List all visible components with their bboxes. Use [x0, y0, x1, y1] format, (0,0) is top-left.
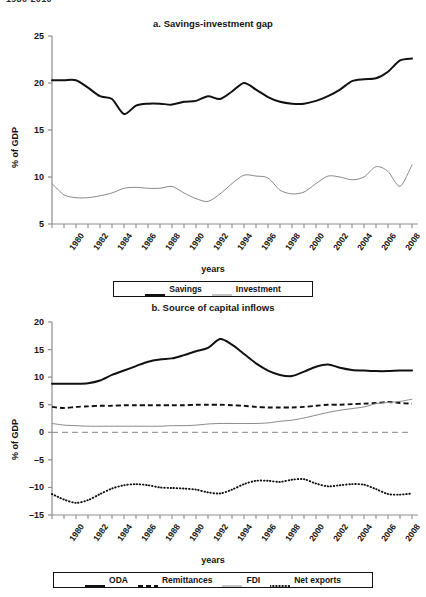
chart-panel-source-of-capital-inflows: b. Source of capital inflows % of GDP –1… [0, 300, 426, 597]
series-line-savings [52, 59, 412, 115]
y-tick-label: –10 [16, 482, 44, 492]
y-tick-label: 10 [16, 172, 44, 182]
panel-a-x-axis-label: years [0, 264, 426, 274]
y-tick-label: 0 [16, 427, 44, 437]
y-tick-label: 20 [16, 317, 44, 327]
y-tick-label: 5 [16, 400, 44, 410]
legend-key-investment [212, 285, 232, 293]
legend-key-net-exports [270, 576, 290, 584]
legend-key-fdi [222, 576, 242, 584]
panel-b-legend: ODARemittancesFDINet exports [53, 572, 373, 588]
figure-root: 1980-2010 a. Savings-investment gap % of… [0, 0, 426, 597]
legend-key-remittances [138, 576, 158, 584]
panel-b-x-axis-label: years [0, 555, 426, 565]
legend-item: Net exports [270, 575, 341, 585]
clipped-page-header: 1980-2010 [6, 0, 52, 2]
panel-a-legend: SavingsInvestment [113, 281, 313, 297]
y-tick-label: 5 [16, 219, 44, 229]
series-line-net-exports [52, 479, 412, 503]
y-tick-label: 20 [16, 78, 44, 88]
y-tick-label: –5 [16, 455, 44, 465]
panel-b-plot [0, 300, 426, 550]
legend-key-savings [145, 285, 165, 293]
legend-item: Savings [145, 284, 202, 294]
legend-item: Investment [212, 284, 281, 294]
series-line-oda [52, 339, 412, 384]
legend-label: Remittances [162, 575, 213, 585]
legend-item: ODA [85, 575, 128, 585]
y-tick-label: 25 [16, 31, 44, 41]
legend-item: FDI [222, 575, 260, 585]
y-tick-label: 10 [16, 372, 44, 382]
y-tick-label: 15 [16, 125, 44, 135]
legend-key-oda [85, 576, 105, 584]
legend-item: Remittances [138, 575, 213, 585]
y-tick-label: 15 [16, 345, 44, 355]
chart-panel-savings-investment-gap: a. Savings-investment gap % of GDP 51015… [0, 18, 426, 303]
legend-label: Investment [236, 284, 281, 294]
series-line-investment [52, 165, 412, 202]
y-tick-label: –15 [16, 510, 44, 520]
legend-label: Savings [169, 284, 202, 294]
legend-label: FDI [246, 575, 260, 585]
legend-label: Net exports [294, 575, 341, 585]
series-line-remittances [52, 402, 412, 408]
panel-a-plot [0, 18, 426, 268]
legend-label: ODA [109, 575, 128, 585]
